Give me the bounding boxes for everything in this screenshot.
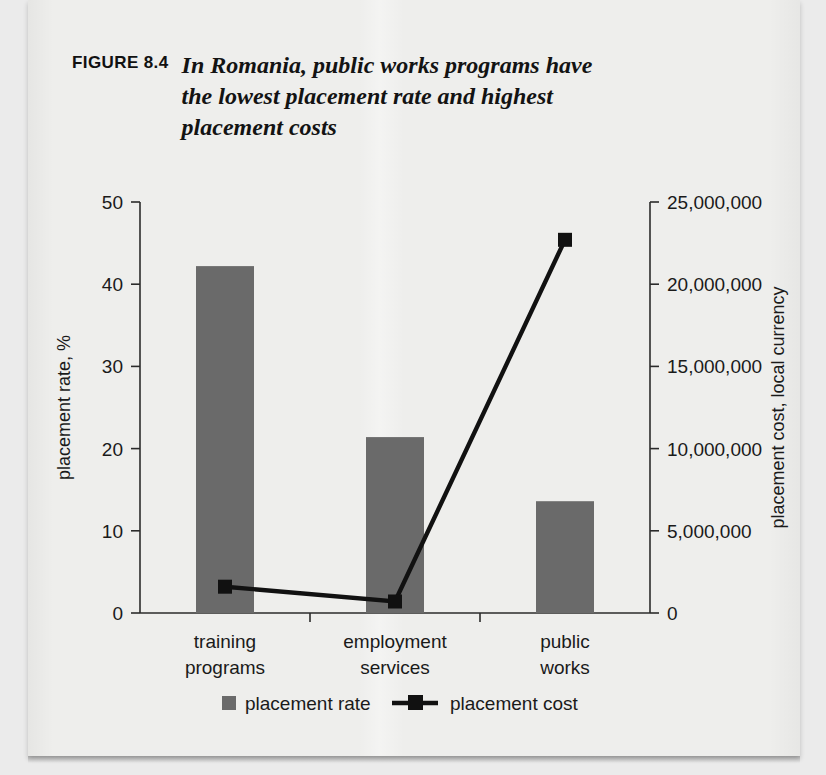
legend-label-placement-cost: placement cost bbox=[450, 693, 579, 714]
chart-canvas: 01020304050placement rate, % 05,000,0001… bbox=[0, 0, 826, 775]
y-axis-right: 05,000,00010,000,00015,000,00020,000,000… bbox=[650, 192, 788, 624]
legend-marker-placement-cost bbox=[408, 695, 423, 710]
legend-swatch-placement-rate bbox=[222, 696, 236, 710]
y-axis-left-tick-label: 0 bbox=[112, 603, 123, 624]
x-axis-category-label: services bbox=[360, 657, 430, 678]
y-axis-right-title: placement cost, local currency bbox=[768, 286, 788, 528]
y-axis-left-tick-label: 20 bbox=[102, 439, 123, 460]
scanned-page: FIGURE 8.4 In Romania, public works prog… bbox=[0, 0, 826, 775]
y-axis-right-tick-label: 10,000,000 bbox=[667, 439, 762, 460]
y-axis-left-title: placement rate, % bbox=[54, 335, 74, 480]
bar-series-placement-rate bbox=[196, 266, 594, 613]
y-axis-right-tick-label: 25,000,000 bbox=[667, 192, 762, 213]
x-axis: trainingprogramsemploymentservicespublic… bbox=[140, 613, 650, 678]
x-axis-category-label: works bbox=[539, 657, 590, 678]
chart-legend: placement rateplacement cost bbox=[222, 693, 579, 714]
y-axis-right-tick-label: 5,000,000 bbox=[667, 521, 752, 542]
y-axis-left-tick-label: 50 bbox=[102, 192, 123, 213]
y-axis-left: 01020304050placement rate, % bbox=[54, 192, 140, 624]
y-axis-left-tick-label: 40 bbox=[102, 274, 123, 295]
x-axis-category-label: public bbox=[540, 631, 590, 652]
y-axis-left-tick-label: 10 bbox=[102, 521, 123, 542]
cost-line-marker bbox=[388, 594, 402, 608]
x-axis-category-label: training bbox=[194, 631, 256, 652]
cost-line-marker bbox=[558, 233, 572, 247]
x-axis-category-label: programs bbox=[185, 657, 265, 678]
x-axis-category-label: employment bbox=[343, 631, 447, 652]
bar bbox=[536, 501, 594, 613]
y-axis-right-tick-label: 15,000,000 bbox=[667, 356, 762, 377]
y-axis-left-tick-label: 30 bbox=[102, 356, 123, 377]
y-axis-right-tick-label: 20,000,000 bbox=[667, 274, 762, 295]
bar bbox=[366, 437, 424, 613]
cost-line-marker bbox=[218, 580, 232, 594]
legend-label-placement-rate: placement rate bbox=[245, 693, 371, 714]
y-axis-right-tick-label: 0 bbox=[667, 603, 678, 624]
bar bbox=[196, 266, 254, 613]
